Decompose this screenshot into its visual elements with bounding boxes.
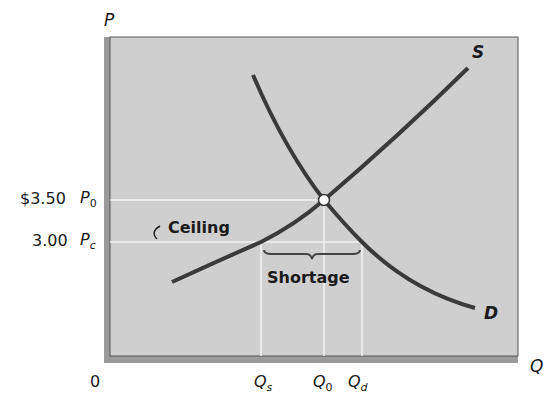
y-axis-label: P <box>104 10 114 30</box>
pc-symbol-main: P <box>80 230 90 249</box>
q0-sub: 0 <box>326 381 333 394</box>
p0-symbol: P0 <box>80 188 97 210</box>
pc-dollar-label: 3.00 <box>32 231 68 250</box>
shortage-annotation: Shortage <box>267 268 350 287</box>
qs-main: Q <box>254 372 267 391</box>
p0-symbol-main: P <box>80 188 90 207</box>
qd-label: Qd <box>348 372 368 394</box>
qd-main: Q <box>348 372 361 391</box>
q0-main: Q <box>313 372 326 391</box>
supply-label: S <box>472 42 484 62</box>
origin-label: 0 <box>90 372 100 391</box>
pc-symbol-sub: c <box>90 239 96 252</box>
p0-symbol-sub: 0 <box>90 197 97 210</box>
plot-shadow-bottom <box>104 356 518 363</box>
p0-dollar-label: $3.50 <box>20 189 66 208</box>
qd-sub: d <box>361 381 368 394</box>
qs-label: Qs <box>254 372 272 394</box>
q0-label: Q0 <box>313 372 333 394</box>
plot-area <box>110 37 518 356</box>
pc-symbol: Pc <box>80 230 96 252</box>
x-axis-label: Q <box>530 356 543 376</box>
equilibrium-point <box>319 195 330 206</box>
plot-shadow-left <box>104 37 110 363</box>
demand-label: D <box>484 303 498 323</box>
ceiling-annotation: Ceiling <box>168 218 230 237</box>
qs-sub: s <box>267 381 273 394</box>
